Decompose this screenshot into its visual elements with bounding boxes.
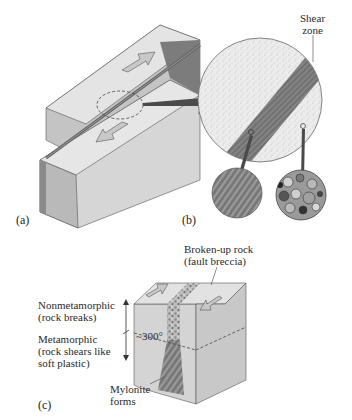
- breccia-column: [167, 304, 180, 340]
- panel-c-label: (c): [38, 398, 51, 413]
- mylonite-texture-inset: [212, 168, 262, 218]
- nonmetamorphic-label: Nonmetamorphic (rock breaks): [38, 299, 115, 323]
- shear-zone-line1: Shear: [300, 12, 325, 24]
- metamorphic-line1: Metamorphic: [38, 333, 111, 345]
- panel-b-magnified-view: [198, 35, 340, 220]
- metamorphic-line2: (rock shears like: [38, 345, 111, 357]
- mylonite-line2: forms: [110, 395, 150, 407]
- breccia-leader: [211, 267, 217, 285]
- panel-a-label: (a): [16, 213, 29, 228]
- temperature-label: ~300°: [136, 330, 163, 342]
- shear-zone-line2: zone: [300, 24, 325, 36]
- breccia-label: Broken-up rock (fault breccia): [184, 243, 253, 267]
- breccia-line2: (fault breccia): [184, 255, 253, 267]
- metamorphic-line3: soft plastic): [38, 357, 111, 369]
- mylonite-line1: Mylonite: [110, 383, 150, 395]
- depth-arrow-down: [123, 355, 129, 361]
- depth-arrow-up: [123, 299, 129, 305]
- panel-a-block-diagram: [40, 25, 228, 228]
- panel-b-label: (b): [182, 213, 196, 228]
- fault-strip: [40, 160, 46, 214]
- metamorphic-label: Metamorphic (rock shears like soft plast…: [38, 333, 111, 369]
- nonmetamorphic-line2: (rock breaks): [38, 311, 115, 323]
- nonmetamorphic-line1: Nonmetamorphic: [38, 299, 115, 311]
- mylonite-label: Mylonite forms: [110, 383, 150, 407]
- breccia-line1: Broken-up rock: [184, 243, 253, 255]
- shear-zone-label: Shear zone: [300, 12, 325, 36]
